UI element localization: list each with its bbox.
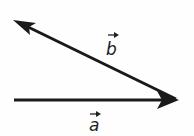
- vector-b: [13, 20, 176, 99]
- label-a-text: a: [89, 115, 99, 135]
- vector-a: [14, 91, 179, 109]
- label-b-arrow-tip: [114, 32, 119, 38]
- vector-diagram-svg: b a: [0, 0, 194, 136]
- label-b-text: b: [106, 39, 117, 59]
- vector-b-arrowhead: [13, 20, 36, 35]
- label-b: b: [106, 32, 119, 59]
- label-a: a: [89, 111, 101, 135]
- vector-diagram: b a: [0, 0, 194, 136]
- vector-b-shaft: [26, 26, 176, 99]
